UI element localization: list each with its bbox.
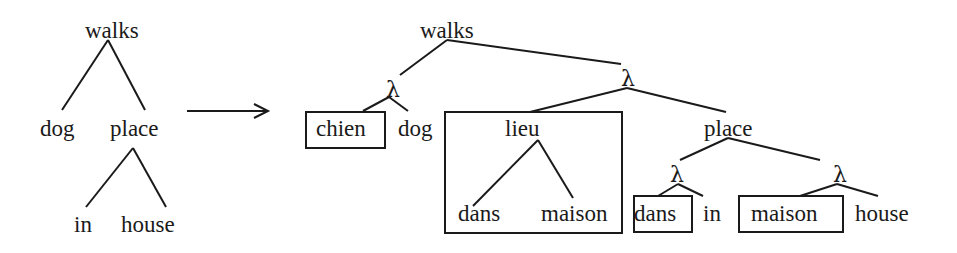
edge-lambda1-chien xyxy=(363,97,389,111)
node-dans: dans xyxy=(458,201,500,226)
source-tree: walks dog place in house xyxy=(40,18,175,237)
edge-lambda4-house xyxy=(837,184,878,196)
edge-walks-lambda2 xyxy=(447,40,621,64)
lambda-node: λ xyxy=(833,162,847,187)
edge-place-lambda3 xyxy=(680,138,728,160)
node-walks: walks xyxy=(420,18,474,43)
edge-place-house xyxy=(133,148,166,207)
node-walks: walks xyxy=(85,18,139,43)
node-maison: maison xyxy=(751,201,818,226)
node-house: house xyxy=(855,201,909,226)
target-tree: walks λ chien dog λ lieu dans maison pla… xyxy=(306,18,909,233)
edge-walks-place xyxy=(108,40,145,110)
node-chien: chien xyxy=(316,116,366,141)
edge-walks-dog xyxy=(62,40,108,110)
node-house: house xyxy=(121,212,175,237)
transform-arrow xyxy=(187,104,268,118)
edge-lieu-maison xyxy=(538,140,573,198)
node-dog: dog xyxy=(40,116,75,141)
edge-lieu-dans xyxy=(473,140,538,206)
edge-place-lambda4 xyxy=(728,138,820,160)
node-place: place xyxy=(110,116,159,141)
node-maison: maison xyxy=(541,201,608,226)
node-dog: dog xyxy=(398,116,433,141)
node-in: in xyxy=(703,201,721,226)
lambda-node: λ xyxy=(670,162,684,187)
edge-lambda3-dans xyxy=(658,184,678,196)
edge-lambda3-in xyxy=(678,184,703,196)
edge-walks-lambda1 xyxy=(400,40,447,75)
node-lieu: lieu xyxy=(505,116,540,141)
edge-lambda2-place xyxy=(627,88,726,112)
edge-lambda4-maison xyxy=(800,184,837,196)
edge-lambda2-lieu xyxy=(530,88,627,112)
node-dans: dans xyxy=(634,201,676,226)
edge-place-in xyxy=(86,148,133,207)
node-in: in xyxy=(74,212,92,237)
tree-diagram: walks dog place in house walks λ chien d… xyxy=(0,0,957,253)
